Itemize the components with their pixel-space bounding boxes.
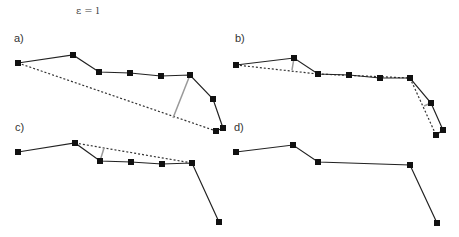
vertex-marker (187, 72, 193, 78)
douglas-peucker-diagram (0, 0, 459, 237)
vertex-marker (72, 140, 78, 146)
vertex-marker (15, 60, 21, 66)
vertex-marker (15, 149, 21, 155)
vertex-marker (433, 132, 439, 138)
vertex-marker (70, 52, 76, 58)
panel-c (15, 140, 222, 225)
vertex-marker (346, 72, 352, 78)
vertex-marker (213, 128, 219, 134)
vertex-marker (189, 160, 195, 166)
panel-b (233, 55, 446, 138)
polyline (236, 145, 437, 223)
vertex-marker (428, 100, 434, 106)
vertex-marker (158, 73, 164, 79)
vertex-marker (407, 75, 413, 81)
vertex-marker (407, 162, 413, 168)
vertex-marker (315, 159, 321, 165)
vertex-marker (128, 159, 134, 165)
vertex-marker (377, 75, 383, 81)
polyline (18, 143, 219, 222)
vertex-marker (127, 70, 133, 76)
vertex-marker (315, 71, 321, 77)
vertex-marker (159, 161, 165, 167)
vertex-marker (290, 142, 296, 148)
vertex-marker (291, 55, 297, 61)
distance-line (173, 75, 190, 118)
vertex-marker (434, 220, 440, 226)
vertex-marker (233, 62, 239, 68)
panel-a (15, 52, 226, 134)
panel-d (233, 142, 440, 226)
vertex-marker (216, 219, 222, 225)
vertex-marker (97, 158, 103, 164)
vertex-marker (233, 149, 239, 155)
vertex-marker (220, 125, 226, 131)
approximation-line (18, 63, 216, 131)
vertex-marker (440, 127, 446, 133)
vertex-marker (96, 69, 102, 75)
vertex-marker (210, 96, 216, 102)
polyline (18, 55, 223, 131)
polyline (236, 58, 443, 135)
